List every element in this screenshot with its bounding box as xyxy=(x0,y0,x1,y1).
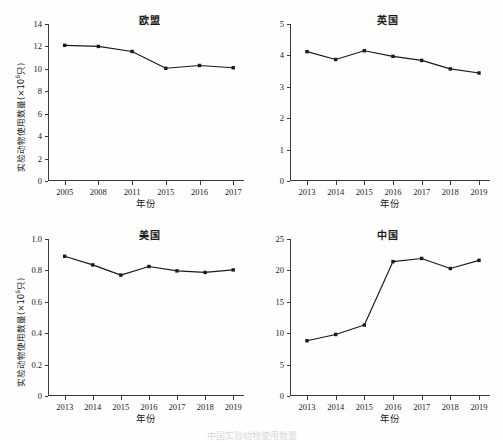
data-series-eu xyxy=(0,0,251,220)
data-series-uk xyxy=(252,0,503,220)
panel-eu: 欧盟 实验动物使用数量(×106只) 年份 024681012142005200… xyxy=(0,0,251,220)
panel-uk: 英国 年份 0123452013201420152016201720182019 xyxy=(252,0,503,220)
data-point-marker-eu xyxy=(130,50,133,53)
data-point-marker-us xyxy=(175,269,178,272)
data-point-marker-us xyxy=(91,263,94,266)
data-point-marker-us xyxy=(147,265,150,268)
data-point-marker-china xyxy=(334,333,337,336)
data-point-marker-eu xyxy=(164,67,167,70)
data-point-marker-china xyxy=(305,339,308,342)
data-point-marker-uk xyxy=(391,55,394,58)
data-point-marker-uk xyxy=(305,50,308,53)
data-point-marker-uk xyxy=(363,49,366,52)
series-line-china xyxy=(307,258,479,340)
data-point-marker-china xyxy=(420,257,423,260)
data-series-us xyxy=(0,215,251,435)
figure-caption: 中国实验动物使用数量 xyxy=(0,429,503,442)
data-point-marker-us xyxy=(203,271,206,274)
data-point-marker-uk xyxy=(420,59,423,62)
data-point-marker-china xyxy=(391,260,394,263)
data-series-china xyxy=(252,215,503,435)
data-point-marker-china xyxy=(477,259,480,262)
panel-china: 中国 年份 0510152025201320142015201620172018… xyxy=(252,215,503,435)
data-point-marker-uk xyxy=(449,67,452,70)
data-point-marker-eu xyxy=(232,66,235,69)
series-line-uk xyxy=(307,51,479,73)
series-line-eu xyxy=(65,45,234,68)
data-point-marker-us xyxy=(119,273,122,276)
data-point-marker-eu xyxy=(63,44,66,47)
data-point-marker-uk xyxy=(477,71,480,74)
data-point-marker-us xyxy=(232,268,235,271)
data-point-marker-us xyxy=(63,255,66,258)
data-point-marker-china xyxy=(363,323,366,326)
data-point-marker-eu xyxy=(97,45,100,48)
data-point-marker-eu xyxy=(198,64,201,67)
data-point-marker-china xyxy=(449,267,452,270)
panel-us: 美国 实验动物使用数量(×106只) 年份 00.20.40.60.81.020… xyxy=(0,215,251,435)
data-point-marker-uk xyxy=(334,58,337,61)
